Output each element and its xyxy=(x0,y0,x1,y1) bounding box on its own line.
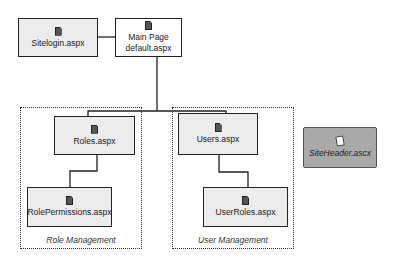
node-label: default.aspx xyxy=(126,43,172,54)
node-siteheader[interactable]: SiteHeader.ascx xyxy=(303,127,377,168)
document-icon xyxy=(242,196,249,205)
site-map-diagram: Role Management User Management Sitelogi… xyxy=(0,0,394,266)
node-sitelogin[interactable]: Sitelogin.aspx xyxy=(18,18,98,57)
node-rolepermissions[interactable]: RolePermissions.aspx xyxy=(27,187,112,227)
document-icon xyxy=(55,27,62,36)
node-roles[interactable]: Roles.aspx xyxy=(54,116,135,155)
node-title: Main Page xyxy=(128,32,169,43)
user-control-icon xyxy=(335,135,345,146)
node-label: UserRoles.aspx xyxy=(216,207,276,218)
document-icon xyxy=(66,196,73,205)
node-label: RolePermissions.aspx xyxy=(27,207,111,218)
node-users[interactable]: Users.aspx xyxy=(178,113,258,155)
node-label: Roles.aspx xyxy=(73,136,115,147)
node-main-page[interactable]: Main Page default.aspx xyxy=(115,18,182,57)
document-icon xyxy=(215,123,222,132)
group-label: Role Management xyxy=(21,235,141,245)
document-icon xyxy=(91,125,98,134)
node-label: Users.aspx xyxy=(197,134,240,145)
node-label: Sitelogin.aspx xyxy=(32,38,85,49)
document-icon xyxy=(145,21,152,30)
node-userroles[interactable]: UserRoles.aspx xyxy=(203,187,288,227)
group-label: User Management xyxy=(173,235,293,245)
node-label: SiteHeader.ascx xyxy=(309,148,371,159)
